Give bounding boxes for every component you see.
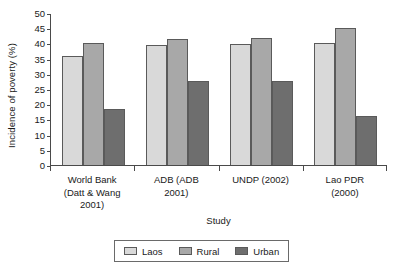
- x-axis-tickmark: [134, 166, 135, 171]
- legend-swatch-icon: [235, 247, 248, 255]
- y-axis-tickmark: [47, 90, 51, 91]
- y-axis-title-text: Incidence of poverty (%): [6, 43, 17, 148]
- x-axis-category-label: UNDP (2002): [219, 174, 303, 187]
- y-axis-tick-label: 50: [34, 9, 45, 19]
- legend-entry-rural[interactable]: Rural: [179, 246, 220, 257]
- x-axis-tickmark: [386, 166, 387, 171]
- y-axis-tickmark: [47, 151, 51, 152]
- legend-swatch-icon: [124, 247, 137, 255]
- bar-urban-group-3: [272, 81, 293, 165]
- y-axis-tickmark: [47, 105, 51, 106]
- y-axis-tick-labels: 50454035302520151050: [22, 14, 48, 166]
- bar-rural-group-4: [335, 28, 356, 165]
- x-axis-category-label-line: 2001): [50, 199, 134, 212]
- y-axis-tick-label: 5: [40, 146, 45, 156]
- bar-rural-group-2: [167, 39, 188, 165]
- x-axis-category-label-line: UNDP (2002): [219, 174, 303, 187]
- x-axis-tickmarks: [50, 166, 387, 171]
- y-axis-tick-label: 25: [34, 85, 45, 95]
- x-axis-category-label-line: 2001): [134, 187, 218, 200]
- x-axis-category-label-line: (2000): [303, 187, 387, 200]
- bar-chart-figure: Incidence of poverty (%) 504540353025201…: [0, 0, 404, 274]
- chart-legend: LaosRuralUrban: [114, 240, 289, 262]
- legend-label: Urban: [253, 246, 279, 257]
- y-axis-tick-label: 20: [34, 100, 45, 110]
- bar-laos-group-4: [314, 43, 335, 165]
- bar-laos-group-2: [146, 45, 167, 165]
- y-axis-tick-label: 0: [40, 161, 45, 171]
- legend-swatch-icon: [179, 247, 192, 255]
- bar-urban-group-1: [104, 109, 125, 165]
- x-axis-category-label-line: ADB (ADB: [134, 174, 218, 187]
- legend-entry-urban[interactable]: Urban: [235, 246, 279, 257]
- x-axis-category-label: World Bank(Datt & Wang2001): [50, 174, 134, 212]
- bar-urban-group-2: [188, 81, 209, 166]
- legend-label: Laos: [142, 246, 163, 257]
- y-axis-tick-label: 10: [34, 131, 45, 141]
- x-axis-category-label-line: (Datt & Wang: [50, 187, 134, 200]
- y-axis-tick-label: 40: [34, 40, 45, 50]
- y-axis-tickmark: [47, 14, 51, 15]
- legend-label: Rural: [197, 246, 220, 257]
- x-axis-category-label-line: Lao PDR: [303, 174, 387, 187]
- y-axis-tick-label: 45: [34, 24, 45, 34]
- x-axis-tickmark: [50, 166, 51, 171]
- y-axis-tick-label: 30: [34, 70, 45, 80]
- bar-laos-group-1: [62, 56, 83, 165]
- x-axis-title: Study: [50, 215, 387, 226]
- x-axis-tickmark: [219, 166, 220, 171]
- bar-laos-group-3: [230, 44, 251, 165]
- x-axis-tickmark: [303, 166, 304, 171]
- legend-entry-laos[interactable]: Laos: [124, 246, 163, 257]
- y-axis-tickmark: [47, 60, 51, 61]
- y-axis-tickmark: [47, 75, 51, 76]
- y-axis-tick-label: 15: [34, 116, 45, 126]
- y-axis-tickmark: [47, 136, 51, 137]
- bar-rural-group-3: [251, 38, 272, 165]
- plot-area: [50, 14, 387, 166]
- x-axis-category-label: ADB (ADB2001): [134, 174, 218, 199]
- y-axis-tickmark: [47, 44, 51, 45]
- y-axis-title: Incidence of poverty (%): [0, 0, 22, 190]
- x-axis-category-labels: World Bank(Datt & Wang2001)ADB (ADB2001)…: [50, 174, 387, 216]
- x-axis-category-label-line: World Bank: [50, 174, 134, 187]
- y-axis-tickmark: [47, 29, 51, 30]
- y-axis-tickmark: [47, 120, 51, 121]
- bar-rural-group-1: [83, 43, 104, 165]
- x-axis-category-label: Lao PDR(2000): [303, 174, 387, 199]
- bar-urban-group-4: [356, 116, 377, 165]
- y-axis-tick-label: 35: [34, 55, 45, 65]
